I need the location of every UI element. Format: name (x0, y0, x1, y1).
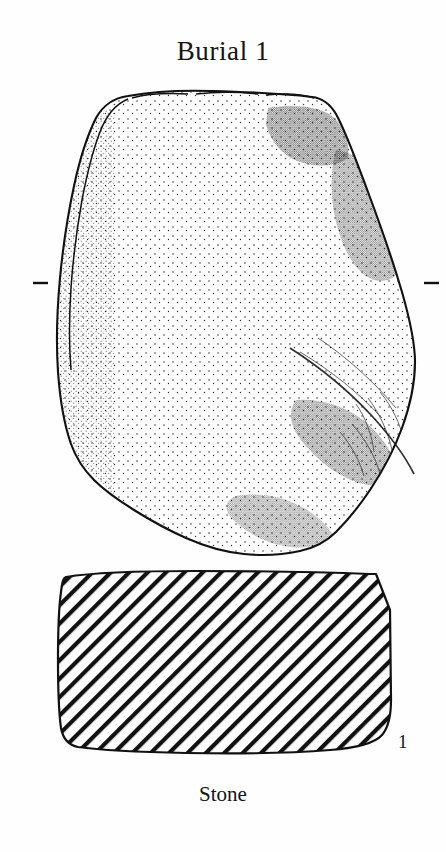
figure-number: 1 (398, 731, 408, 753)
material-caption: Stone (0, 782, 446, 807)
artifact-illustration (0, 0, 446, 852)
drawing-stage (0, 0, 446, 852)
plan-view (50, 85, 430, 565)
cross-section-view (50, 565, 410, 765)
figure-sheet: Burial 1 (0, 0, 446, 852)
